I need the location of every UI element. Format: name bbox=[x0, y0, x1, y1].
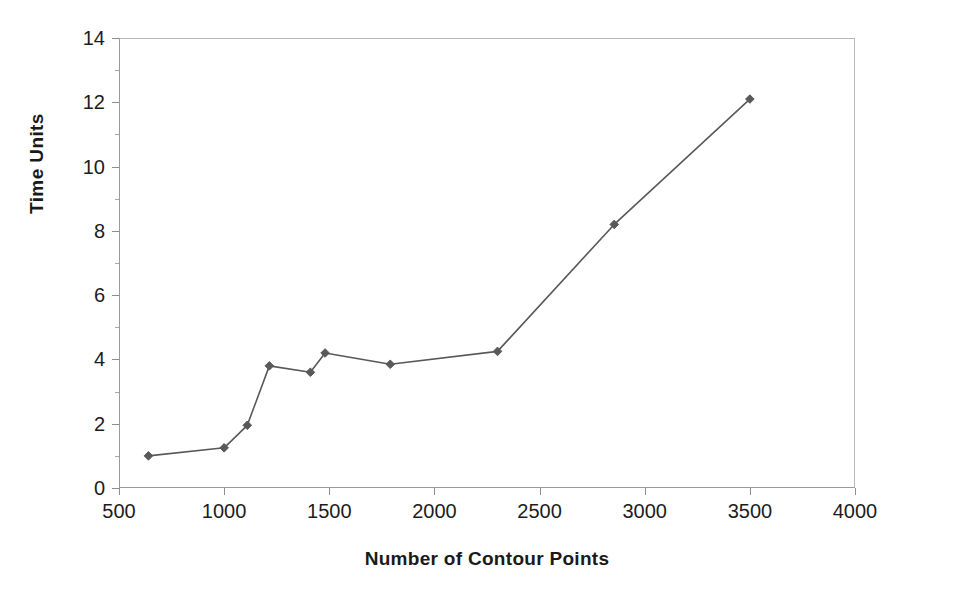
line-chart: 14 12 10 8 6 4 2 0 500 1000 1500 2000 25… bbox=[0, 0, 964, 595]
x-tick-label: 2500 bbox=[495, 501, 585, 521]
y-tick-label: 14 bbox=[63, 28, 105, 48]
y-tick-label: 2 bbox=[63, 414, 105, 434]
x-tick-label: 3500 bbox=[705, 501, 795, 521]
x-tick-label: 2000 bbox=[389, 501, 479, 521]
y-tick-label: 8 bbox=[63, 221, 105, 241]
y-tick-label: 0 bbox=[63, 478, 105, 498]
y-tick-label: 6 bbox=[63, 285, 105, 305]
x-tick-label: 1000 bbox=[179, 501, 269, 521]
x-tick-label: 3000 bbox=[600, 501, 690, 521]
x-axis-title: Number of Contour Points bbox=[119, 548, 855, 570]
x-tick-label: 500 bbox=[74, 501, 164, 521]
x-tick-label: 1500 bbox=[284, 501, 374, 521]
y-tick-label: 4 bbox=[63, 349, 105, 369]
y-tick-label: 12 bbox=[63, 92, 105, 112]
y-tick-label: 10 bbox=[63, 157, 105, 177]
y-axis-title: Time Units bbox=[26, 184, 48, 214]
x-tick-label: 4000 bbox=[810, 501, 900, 521]
plot-area bbox=[119, 38, 855, 488]
